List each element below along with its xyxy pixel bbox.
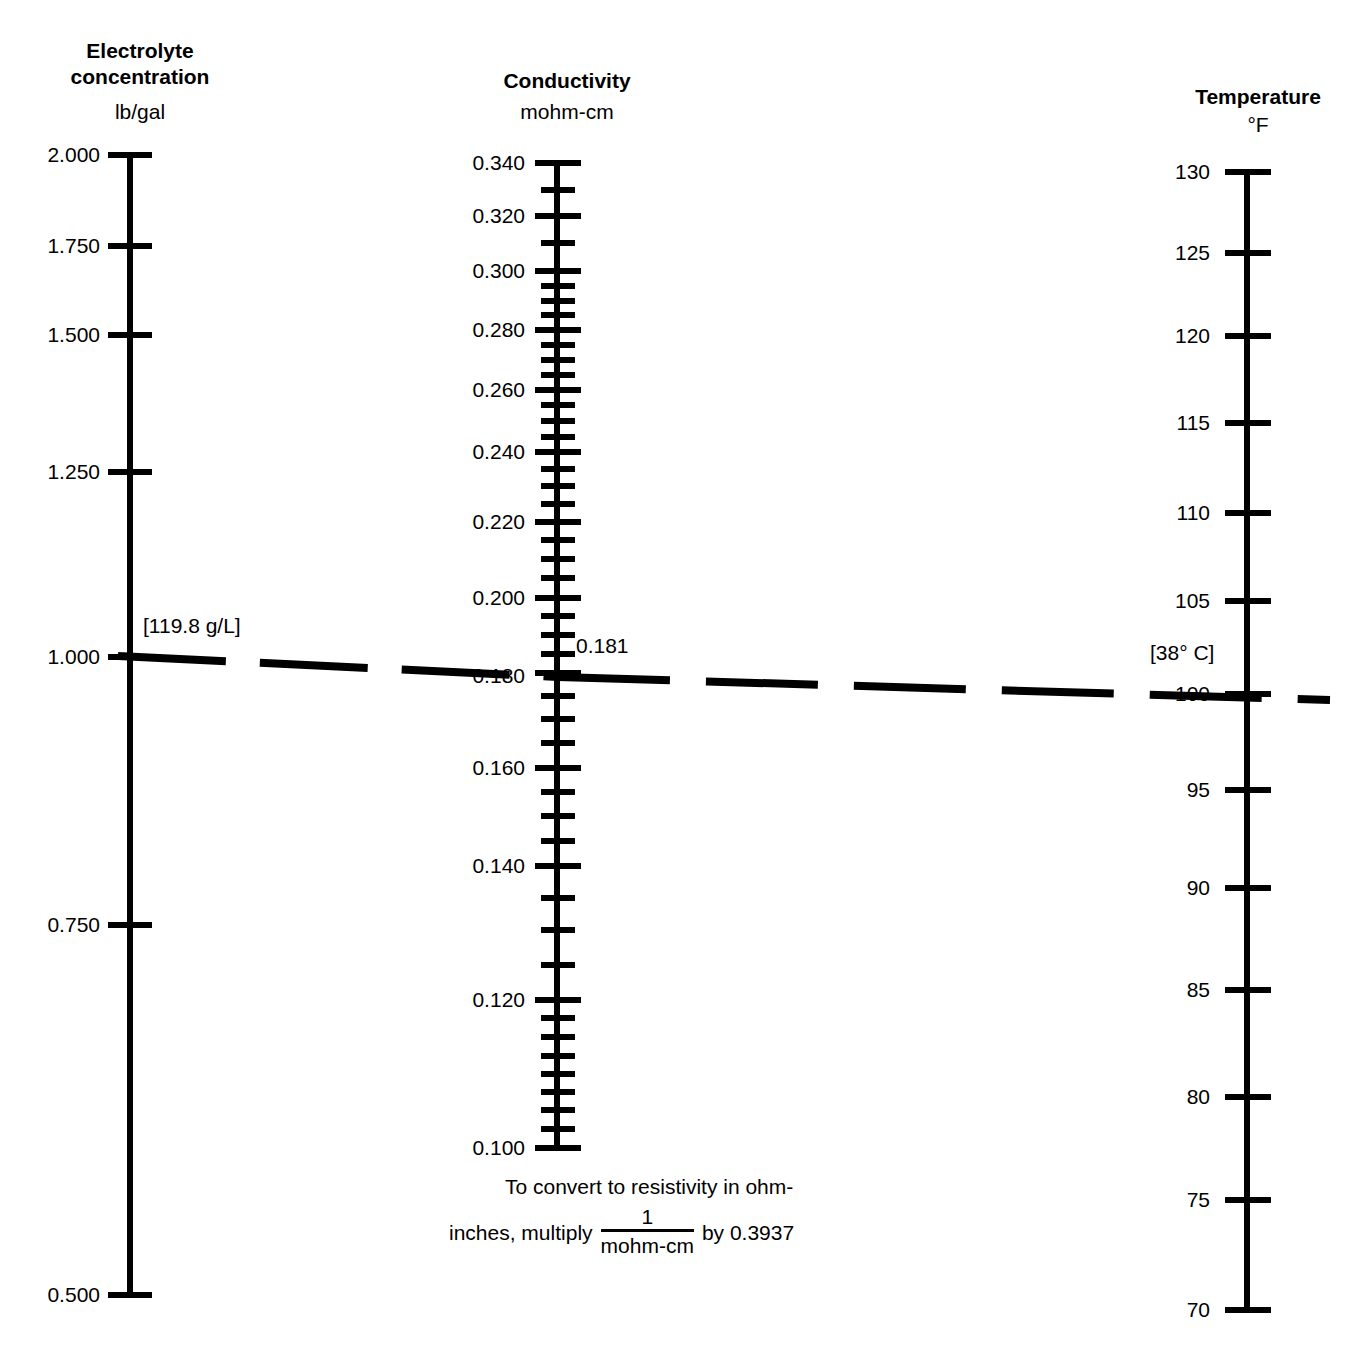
conductivity-label-0.160: 0.160 xyxy=(400,757,525,778)
nomogram-canvas xyxy=(0,0,1358,1353)
electrolyte-label-0.750: 0.750 xyxy=(0,914,100,935)
temperature-reading-annotation: [38° C] xyxy=(1150,642,1214,663)
conductivity-label-0.220: 0.220 xyxy=(400,511,525,532)
footnote-line2-post: by 0.3937 xyxy=(702,1221,794,1244)
temperature-label-115: 115 xyxy=(1125,412,1210,433)
electrolyte-axis xyxy=(108,155,152,1295)
footnote-fraction-denominator: mohm-cm xyxy=(601,1233,694,1258)
electrolyte-reading-annotation: [119.8 g/L] xyxy=(143,615,241,636)
temperature-label-75: 75 xyxy=(1125,1189,1210,1210)
conductivity-label-0.180: 0.180 xyxy=(400,665,525,686)
electrolyte-label-0.500: 0.500 xyxy=(0,1284,100,1305)
electrolyte-label-1.250: 1.250 xyxy=(0,461,100,482)
conductivity-label-0.300: 0.300 xyxy=(400,260,525,281)
footnote-line2: inches, multiply1mohm-cmby 0.3937 xyxy=(449,1208,794,1260)
electrolyte-label-1.750: 1.750 xyxy=(0,235,100,256)
footnote-line1: To convert to resistivity in ohm- xyxy=(505,1168,793,1206)
footnote-fraction-bar xyxy=(601,1229,694,1232)
temperature-label-130: 130 xyxy=(1125,161,1210,182)
temperature-label-90: 90 xyxy=(1125,877,1210,898)
conductivity-label-0.240: 0.240 xyxy=(400,441,525,462)
temperature-label-125: 125 xyxy=(1125,242,1210,263)
electrolyte-label-2.000: 2.000 xyxy=(0,144,100,165)
conductivity-label-0.320: 0.320 xyxy=(400,205,525,226)
footnote-fraction: 1mohm-cm xyxy=(601,1206,694,1258)
temperature-label-95: 95 xyxy=(1125,779,1210,800)
electrolyte-label-1.000: 1.000 xyxy=(0,646,100,667)
footnote-fraction-numerator: 1 xyxy=(601,1206,694,1228)
conductivity-label-0.280: 0.280 xyxy=(400,319,525,340)
temperature-label-100: 100 xyxy=(1125,683,1210,704)
temperature-axis xyxy=(1225,172,1271,1310)
conductivity-label-0.340: 0.340 xyxy=(400,152,525,173)
temperature-label-85: 85 xyxy=(1125,979,1210,1000)
temperature-label-70: 70 xyxy=(1125,1299,1210,1320)
conductivity-label-0.120: 0.120 xyxy=(400,989,525,1010)
temperature-label-120: 120 xyxy=(1125,325,1210,346)
conductivity-reading-annotation: 0.181 xyxy=(576,635,629,656)
footnote-line2-pre: inches, multiply xyxy=(449,1221,593,1244)
temperature-label-80: 80 xyxy=(1125,1086,1210,1107)
conductivity-label-0.140: 0.140 xyxy=(400,855,525,876)
temperature-label-105: 105 xyxy=(1125,590,1210,611)
conductivity-label-0.260: 0.260 xyxy=(400,379,525,400)
conductivity-label-0.100: 0.100 xyxy=(400,1137,525,1158)
temperature-label-110: 110 xyxy=(1125,502,1210,523)
conductivity-label-0.200: 0.200 xyxy=(400,587,525,608)
electrolyte-label-1.500: 1.500 xyxy=(0,324,100,345)
conductivity-axis xyxy=(535,163,581,1148)
